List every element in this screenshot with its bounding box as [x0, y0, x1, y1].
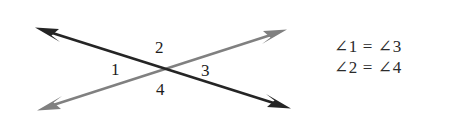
- intersecting-lines-diagram: 1 2 3 4: [0, 0, 310, 119]
- angle-label-2: 2: [155, 39, 164, 56]
- equation-angle2-equals-angle4: ∠2 = ∠4: [334, 57, 454, 78]
- angle-label-3: 3: [201, 62, 210, 79]
- equation-angle1-equals-angle3: ∠1 = ∠3: [334, 36, 454, 57]
- angle-label-1: 1: [111, 61, 120, 78]
- angle-equations: ∠1 = ∠3 ∠2 = ∠4: [334, 36, 454, 84]
- angle-label-4: 4: [156, 81, 165, 98]
- diagram-canvas: [0, 0, 310, 119]
- geometry-figure: 1 2 3 4 ∠1 = ∠3 ∠2 = ∠4: [0, 0, 461, 119]
